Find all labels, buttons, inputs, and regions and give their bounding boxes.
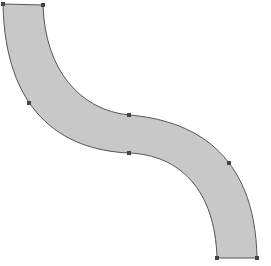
handle-top-left[interactable] xyxy=(1,2,5,6)
handle-bottom-left[interactable] xyxy=(215,256,219,260)
handle-left-mid[interactable] xyxy=(27,101,31,105)
handle-center-top[interactable] xyxy=(127,113,131,117)
handle-center-bottom[interactable] xyxy=(127,151,131,155)
handle-top-right[interactable] xyxy=(41,3,45,7)
s-curve-shape[interactable] xyxy=(3,4,257,258)
handle-right-mid[interactable] xyxy=(227,161,231,165)
handle-bottom-right[interactable] xyxy=(255,256,259,260)
canvas xyxy=(0,0,271,266)
